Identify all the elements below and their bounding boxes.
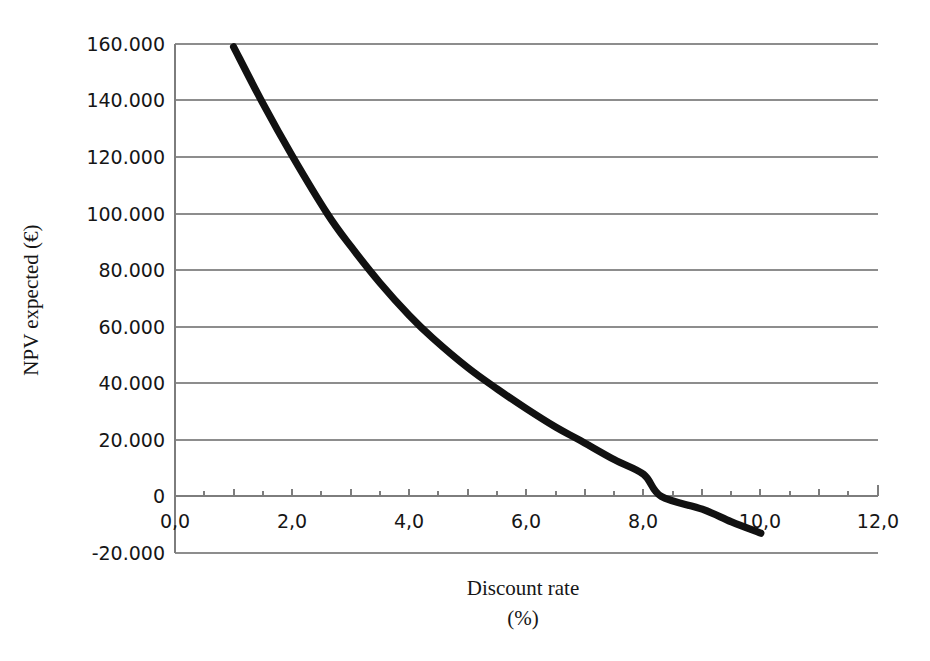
x-tick-label-8: 8,0 [628, 510, 658, 532]
npv-curve [234, 47, 761, 533]
x-tick-label-6: 6,0 [511, 510, 541, 532]
y-tick-label-140000: 140.000 [86, 89, 165, 111]
y-axis-tick-labels: 160.000 140.000 120.000 100.000 80.000 6… [86, 33, 165, 564]
y-tick-label-80000: 80.000 [99, 259, 165, 281]
y-tick-label-60000: 60.000 [99, 316, 165, 338]
x-axis-ticks [175, 489, 878, 496]
x-tick-label-2: 2,0 [277, 510, 307, 532]
y-axis-title: NPV expected (€) [19, 224, 43, 375]
y-tick-label-160000: 160.000 [86, 33, 165, 55]
chart-container: 160.000 140.000 120.000 100.000 80.000 6… [0, 0, 930, 661]
x-axis-title: Discount rate [467, 576, 580, 600]
gridlines [175, 44, 878, 553]
x-axis-tick-labels: 0,0 2,0 4,0 6,0 8,0 10,0 12,0 [160, 510, 899, 532]
y-tick-label-120000: 120.000 [86, 146, 165, 168]
x-tick-label-0: 0,0 [160, 510, 190, 532]
x-axis-unit: (%) [507, 606, 538, 630]
y-tick-label-0: 0 [153, 485, 165, 507]
y-tick-label-20000: 20.000 [99, 429, 165, 451]
y-tick-label-minus20000: -20.000 [92, 542, 165, 564]
y-tick-label-100000: 100.000 [86, 203, 165, 225]
x-tick-label-12: 12,0 [857, 510, 899, 532]
npv-vs-discount-rate-chart: 160.000 140.000 120.000 100.000 80.000 6… [0, 0, 930, 661]
x-tick-label-4: 4,0 [394, 510, 424, 532]
y-tick-label-40000: 40.000 [99, 372, 165, 394]
